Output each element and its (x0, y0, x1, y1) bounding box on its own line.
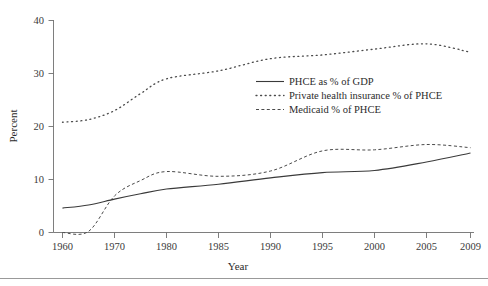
y-tick-label: 20 (34, 121, 45, 132)
x-tick-label: 1980 (156, 241, 177, 252)
legend-label-private-health-insurance: Private health insurance % of PHCE (289, 90, 442, 101)
series-medicaid (63, 144, 471, 234)
x-axis-title: Year (228, 260, 249, 272)
y-tick-label: 30 (34, 68, 45, 79)
x-tick-label: 1960 (52, 241, 73, 252)
y-tick-label: 40 (34, 15, 45, 26)
y-tick-marks (49, 21, 54, 233)
x-tick-labels: 1960 1970 1980 1985 1990 1995 2000 2005 … (52, 241, 481, 252)
chart-figure: 40 30 20 10 0 1960 1970 1980 1985 1990 1… (0, 0, 488, 286)
y-axis-title: Percent (7, 110, 19, 143)
x-tick-label: 2005 (416, 241, 437, 252)
series-private-health-insurance (63, 44, 471, 122)
series-group (63, 44, 471, 235)
x-tick-label: 2000 (364, 241, 385, 252)
x-tick-marks (63, 233, 471, 239)
legend-label-phce-gdp: PHCE as % of GDP (289, 76, 374, 87)
y-tick-label: 0 (39, 227, 44, 238)
x-tick-label: 1985 (208, 241, 229, 252)
y-tick-label: 10 (34, 174, 45, 185)
chart-svg: 40 30 20 10 0 1960 1970 1980 1985 1990 1… (0, 0, 488, 286)
x-tick-label: 1990 (260, 241, 281, 252)
x-tick-label: 1995 (312, 241, 333, 252)
x-tick-label: 1970 (104, 241, 125, 252)
chart-legend: PHCE as % of GDP Private health insuranc… (256, 76, 442, 115)
y-tick-labels: 40 30 20 10 0 (34, 15, 45, 238)
series-phce-gdp (63, 153, 471, 208)
x-tick-label: 2009 (460, 241, 481, 252)
legend-label-medicaid: Medicaid % of PHCE (289, 104, 381, 115)
